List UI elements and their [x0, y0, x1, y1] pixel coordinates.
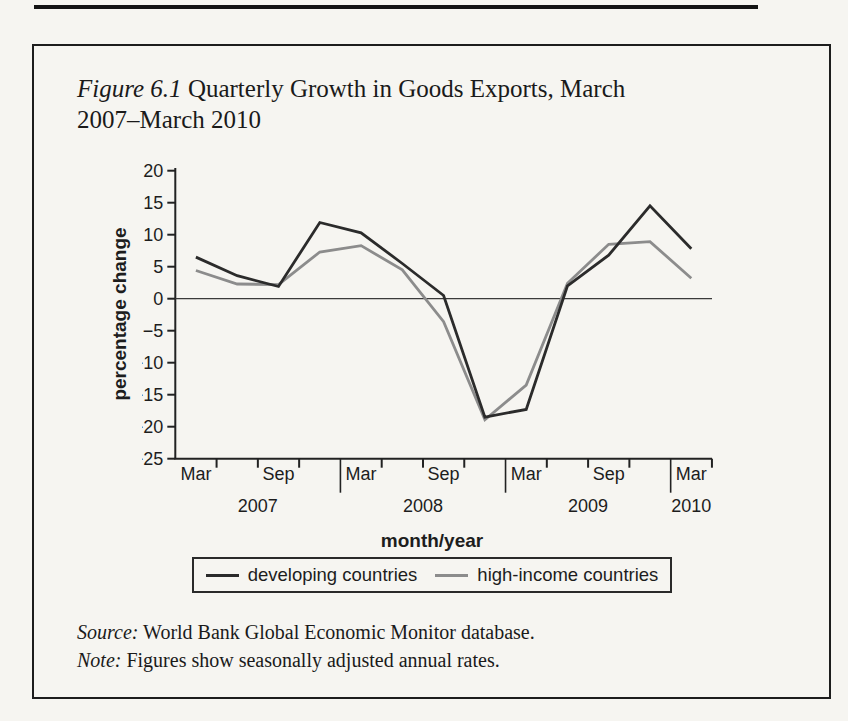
legend-label-high-income: high-income countries [477, 564, 658, 586]
note-text: Figures show seasonally adjusted annual … [126, 649, 499, 671]
y-tick-label: −20 [142, 417, 163, 437]
legend-box: developing countries high-income countri… [192, 557, 673, 593]
chart-svg: 20151050−5−10−15−20−25MarSepMarSepMarSep… [142, 160, 722, 518]
figure-number: Figure 6.1 [77, 75, 182, 102]
series-line-high-income-countries [196, 242, 691, 420]
y-tick-label: −10 [142, 353, 163, 373]
x-tick-label: Mar [511, 464, 542, 484]
year-label: 2007 [238, 496, 278, 516]
y-tick-label: −5 [143, 321, 164, 341]
year-label: 2010 [671, 496, 711, 516]
y-tick-label: 20 [143, 161, 163, 181]
x-axis-title: month/year [142, 530, 722, 552]
figure-title: Figure 6.1 Quarterly Growth in Goods Exp… [77, 74, 667, 135]
source-label: Source: [77, 621, 138, 643]
year-label: 2009 [568, 496, 608, 516]
y-tick-label: 15 [143, 193, 163, 213]
series-line-developing-countries [196, 206, 691, 417]
year-label: 2008 [403, 496, 443, 516]
figure-notes: Source: World Bank Global Economic Monit… [77, 618, 777, 675]
y-tick-label: −25 [142, 449, 163, 469]
y-tick-label: 5 [153, 257, 163, 277]
legend-item-high-income: high-income countries [435, 564, 658, 586]
page-top-rule [34, 5, 758, 9]
source-line: Source: World Bank Global Economic Monit… [77, 618, 777, 646]
x-tick-label: Sep [262, 464, 294, 484]
y-tick-label: 0 [153, 289, 163, 309]
note-line: Note: Figures show seasonally adjusted a… [77, 646, 777, 674]
developing-countries-line-swatch [206, 574, 239, 577]
note-label: Note: [77, 649, 121, 671]
source-text: World Bank Global Economic Monitor datab… [143, 621, 535, 643]
x-tick-label: Mar [676, 464, 707, 484]
x-tick-label: Sep [428, 464, 460, 484]
y-tick-label: −15 [142, 385, 163, 405]
x-tick-label: Mar [346, 464, 377, 484]
y-tick-label: 10 [143, 225, 163, 245]
legend-item-developing: developing countries [206, 564, 418, 586]
y-axis-title: percentage change [109, 164, 135, 464]
legend-label-developing: developing countries [248, 564, 418, 586]
x-tick-label: Mar [180, 464, 211, 484]
high-income-countries-line-swatch [435, 574, 468, 577]
legend: developing countries high-income countri… [142, 557, 722, 593]
x-tick-label: Sep [593, 464, 625, 484]
figure-box: Figure 6.1 Quarterly Growth in Goods Exp… [32, 44, 831, 699]
